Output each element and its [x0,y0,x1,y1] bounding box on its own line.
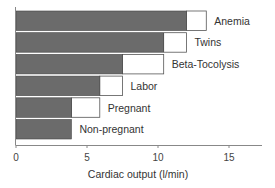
x-tick-label: 0 [13,152,19,163]
bar-label: Anemia [214,15,250,27]
x-tick-label: 10 [152,152,164,163]
bar-row-beta-tocolysis: Beta-Tocolysis [16,54,239,74]
bar-increase [164,33,187,53]
bar-row-non-pregnant: Non-pregnant [16,120,144,140]
x-tick-label: 5 [84,152,90,163]
bar-row-anemia: Anemia [16,11,250,31]
bars-group: AnemiaTwinsBeta-TocolysisLaborPregnantNo… [16,11,250,139]
bar-label: Beta-Tocolysis [172,58,240,70]
bar-base [16,33,164,53]
bar-label: Twins [194,36,221,48]
bar-increase [100,76,123,96]
bar-row-twins: Twins [16,33,221,53]
bar-row-labor: Labor [16,76,158,96]
x-ticks: 051015 [13,145,235,163]
bar-label: Pregnant [108,102,151,114]
bar-base [16,120,71,140]
bar-base [16,98,71,118]
bar-base [16,54,123,74]
bar-increase [71,98,99,118]
x-tick-label: 15 [223,152,235,163]
bar-label: Labor [131,80,158,92]
bar-base [16,76,100,96]
bar-increase [186,11,206,31]
bar-row-pregnant: Pregnant [16,98,150,118]
x-axis-label: Cardiac output (l/min) [88,168,188,180]
bar-increase [123,54,164,74]
bar-label: Non-pregnant [79,123,143,135]
bar-base [16,11,186,31]
cardiac-output-chart: AnemiaTwinsBeta-TocolysisLaborPregnantNo… [0,0,275,188]
